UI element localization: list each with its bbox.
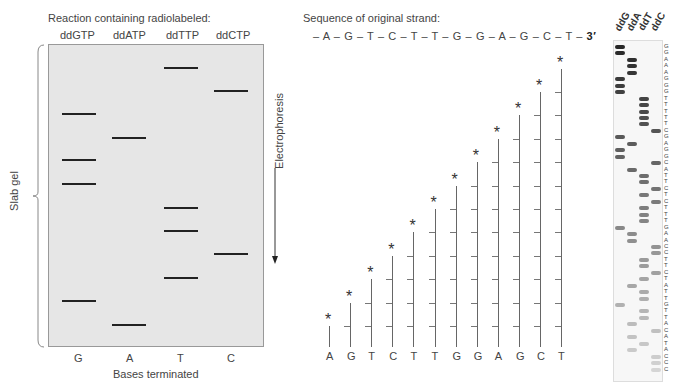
autoradiograph-band xyxy=(651,368,661,372)
x-axis-label: Bases terminated xyxy=(113,368,199,380)
fragment-tick xyxy=(450,303,456,304)
read-base: G xyxy=(664,224,669,230)
autoradiograph-band xyxy=(627,232,637,236)
read-base: C xyxy=(664,249,668,255)
read-base: G xyxy=(664,133,669,139)
read-base: T xyxy=(664,108,668,114)
asterisk-icon: * xyxy=(557,55,563,71)
autoradiograph-band xyxy=(627,322,637,326)
fragment-tick xyxy=(407,303,413,304)
autoradiograph-band xyxy=(639,277,649,281)
fragment-tick xyxy=(492,326,498,327)
autoradiograph-band xyxy=(639,110,649,114)
fragment-tick xyxy=(492,162,498,163)
read-base: A xyxy=(664,56,668,62)
read-base: T xyxy=(664,211,668,217)
fragment-tick xyxy=(344,326,350,327)
asterisk-icon: * xyxy=(494,125,500,141)
fragment-tick xyxy=(555,232,561,233)
autoradiograph-band xyxy=(627,168,637,172)
read-base: G xyxy=(664,43,669,49)
read-base: T xyxy=(664,314,668,320)
fragment-tick xyxy=(471,279,477,280)
fragment-tick xyxy=(492,232,498,233)
read-base: G xyxy=(664,301,669,307)
fragment-tick xyxy=(450,326,456,327)
fragment-tick xyxy=(471,186,477,187)
fragment-tick xyxy=(513,209,519,210)
fragment-tick xyxy=(555,326,561,327)
gel-band xyxy=(62,113,96,115)
read-base: T xyxy=(664,256,668,262)
fragment-strand xyxy=(435,209,436,347)
autoradiograph-band xyxy=(615,45,625,49)
autoradiograph-band xyxy=(639,219,649,223)
fragment-tick xyxy=(555,279,561,280)
read-base: G xyxy=(664,75,669,81)
fragment-tick xyxy=(365,303,371,304)
autoradiograph-band xyxy=(639,213,649,217)
asterisk-icon: * xyxy=(388,242,394,258)
asterisk-icon: * xyxy=(536,78,542,94)
fragment-strand xyxy=(329,326,330,347)
asterisk-icon: * xyxy=(473,148,479,164)
autoradiograph-band xyxy=(615,84,625,88)
fragment-tick xyxy=(555,256,561,257)
fragment-terminal-base: A xyxy=(495,350,502,362)
autoradiograph-band xyxy=(639,258,649,262)
read-base: C xyxy=(664,269,668,275)
fragment-tick xyxy=(555,303,561,304)
gel-band xyxy=(112,137,146,139)
autoradiograph-band xyxy=(651,361,661,365)
gel-band xyxy=(62,183,96,185)
fragment-tick xyxy=(386,303,392,304)
read-base: C xyxy=(664,159,668,165)
read-base: A xyxy=(664,140,668,146)
read-base: C xyxy=(664,366,668,372)
fragment-terminal-base: G xyxy=(347,350,356,362)
read-base: C xyxy=(664,185,668,191)
read-base: A xyxy=(664,62,668,68)
fragment-tick xyxy=(513,326,519,327)
autoradiograph-band xyxy=(639,97,649,101)
autoradiograph-band xyxy=(615,51,625,55)
reaction-title: Reaction containing radiolabeled: xyxy=(48,12,211,24)
fragment-tick xyxy=(471,209,477,210)
fragment-tick xyxy=(450,256,456,257)
lane-label-ddatp: ddATP xyxy=(113,29,146,41)
fragment-tick xyxy=(513,162,519,163)
read-base: T xyxy=(664,120,668,126)
autoradiograph-band xyxy=(627,335,637,339)
lane-label-ddgtp: ddGTP xyxy=(60,29,95,41)
fragment-tick xyxy=(450,209,456,210)
read-base: C xyxy=(664,359,668,365)
fragment-tick xyxy=(429,303,435,304)
fragment-tick xyxy=(450,279,456,280)
gel-band xyxy=(62,300,96,302)
fragment-tick xyxy=(365,326,371,327)
autoradiograph-band xyxy=(627,284,637,288)
gel-band xyxy=(164,277,198,279)
autoradiograph-band xyxy=(651,129,661,133)
autoradiograph-band xyxy=(615,90,625,94)
autoradiograph-band xyxy=(651,161,661,165)
base-letter-g: G xyxy=(74,352,83,364)
fragment-strand xyxy=(413,232,414,347)
fragment-strand xyxy=(561,69,562,347)
autoradiograph-band xyxy=(639,297,649,301)
read-base: T xyxy=(664,178,668,184)
sanger-sequencing-diagram: Reaction containing radiolabeled: ddGTP … xyxy=(0,0,676,389)
gel-band xyxy=(62,159,96,161)
fragment-tick xyxy=(555,186,561,187)
read-base: T xyxy=(664,204,668,210)
base-letter-c: C xyxy=(227,352,235,364)
fragment-tick xyxy=(534,115,540,116)
read-base: C xyxy=(664,243,668,249)
original-sequence: – A – G – T – C – T – T – G – G – A – G … xyxy=(313,30,597,42)
autoradiograph-band xyxy=(615,226,625,230)
fragment-tick xyxy=(534,303,540,304)
autoradiograph-band xyxy=(627,64,637,68)
fragment-tick xyxy=(534,162,540,163)
read-base: A xyxy=(664,320,668,326)
read-base: A xyxy=(664,237,668,243)
